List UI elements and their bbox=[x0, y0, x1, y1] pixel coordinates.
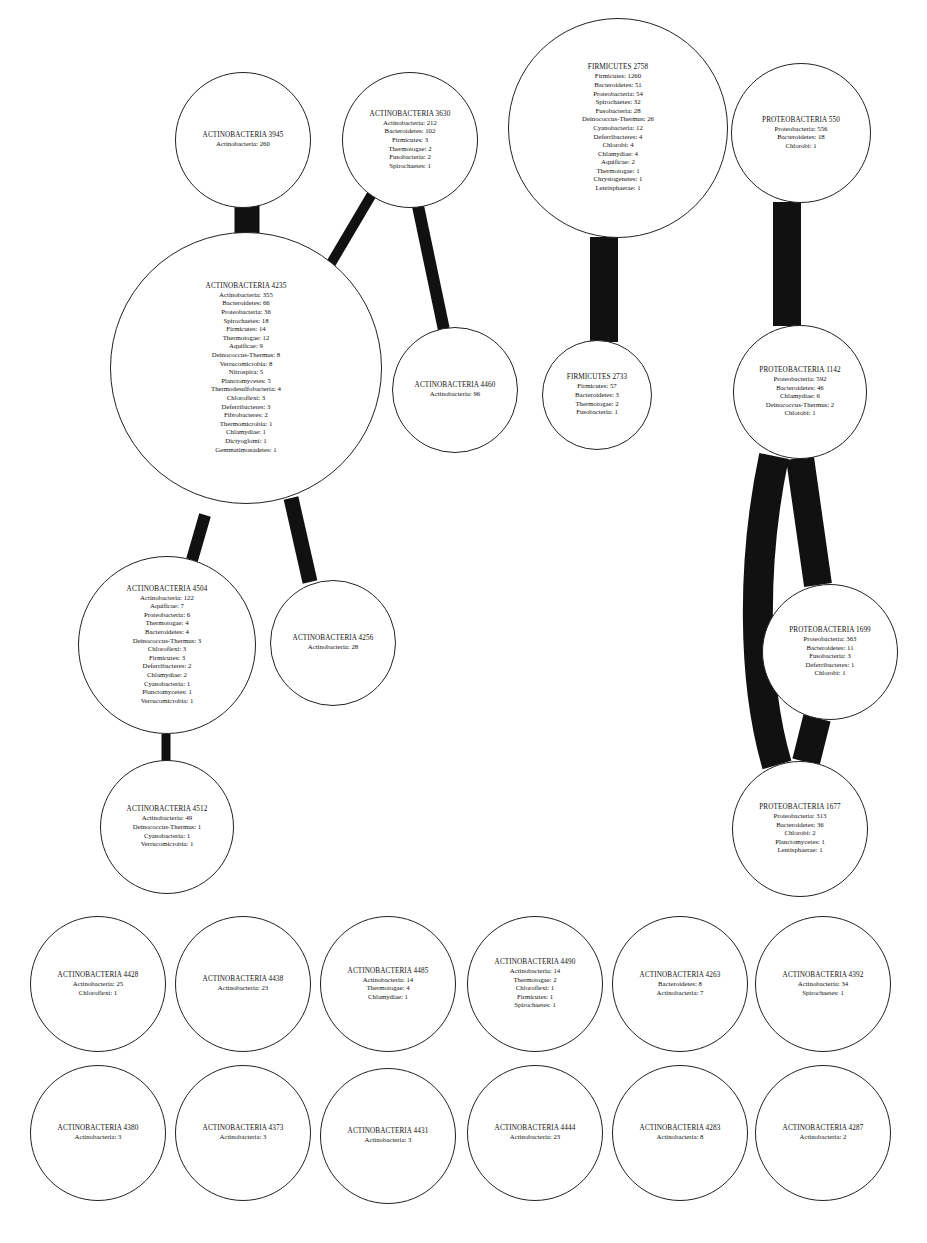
node-phylum-count: Deferribacteres: 2 bbox=[143, 662, 192, 671]
node-a4460: ACTINOBACTERIA 4460Actinobacteria: 96 bbox=[392, 327, 518, 453]
node-a4490: ACTINOBACTERIA 4490Actinobacteria: 14The… bbox=[467, 916, 603, 1052]
node-phylum-count: Thermotogae: 4 bbox=[145, 619, 188, 628]
node-phylum-count: Deinococcus-Thermus: 3 bbox=[133, 637, 202, 646]
node-a4235: ACTINOBACTERIA 4235Actinobacteria: 355Ba… bbox=[110, 232, 382, 504]
node-phylum-count: Actinobacteria: 28 bbox=[308, 643, 358, 652]
node-phylum-count: Chloroflexi: 1 bbox=[516, 984, 554, 993]
node-phylum-count: Proteobacteria: 556 bbox=[774, 125, 827, 134]
node-phylum-count: Aquificae: 9 bbox=[229, 342, 263, 351]
node-phylum-count: Bacteroidetes: 36 bbox=[776, 821, 823, 830]
node-phylum-count: Chlamydiae: 1 bbox=[226, 428, 266, 437]
node-phylum-count: Chlamydiae: 6 bbox=[780, 392, 820, 401]
node-phylum-count: Actinobacteria: 23 bbox=[218, 984, 268, 993]
node-phylum-count: Bacteroidetes: 11 bbox=[806, 644, 853, 653]
node-a4287: ACTINOBACTERIA 4287Actinobacteria: 2 bbox=[755, 1065, 891, 1201]
node-title: ACTINOBACTERIA 4263 bbox=[640, 971, 721, 980]
node-phylum-count: Firmicutes: 1 bbox=[517, 993, 553, 1002]
node-phylum-count: Firmicutes: 1260 bbox=[595, 72, 641, 81]
node-phylum-count: Bacteroidetes: 8 bbox=[658, 980, 702, 989]
node-phylum-count: Thermotogae: 1 bbox=[596, 167, 639, 176]
node-p550: PROTEOBACTERIA 550Proteobacteria: 556Bac… bbox=[731, 63, 871, 203]
node-phylum-count: Chloroflexi: 3 bbox=[227, 394, 265, 403]
node-a4392: ACTINOBACTERIA 4392Actinobacteria: 34Spi… bbox=[755, 916, 891, 1052]
node-p1142: PROTEOBACTERIA 1142Proteobacteria: 592Ba… bbox=[733, 325, 867, 459]
node-title: ACTINOBACTERIA 4444 bbox=[495, 1124, 576, 1133]
node-a4283: ACTINOBACTERIA 4283Actinobacteria: 8 bbox=[612, 1065, 748, 1201]
node-phylum-count: Spirochaetes: 1 bbox=[802, 989, 844, 998]
node-title: ACTINOBACTERIA 4485 bbox=[348, 967, 429, 976]
node-phylum-count: Chlamydiae: 1 bbox=[368, 993, 408, 1002]
node-phylum-count: Fusobacteria: 3 bbox=[809, 652, 851, 661]
node-title: ACTINOBACTERIA 4256 bbox=[293, 634, 374, 643]
node-phylum-count: Deinococcus-Thermus: 26 bbox=[582, 115, 654, 124]
node-phylum-count: Proteobacteria: 592 bbox=[773, 375, 826, 384]
node-phylum-count: Dictyoglomi: 1 bbox=[225, 437, 266, 446]
edge-p1699-p1677 bbox=[806, 718, 817, 762]
node-phylum-count: Planctomycetes: 1 bbox=[775, 838, 825, 847]
cluster-network-diagram: ACTINOBACTERIA 3945Actinobacteria: 260AC… bbox=[0, 0, 927, 1243]
node-a4428: ACTINOBACTERIA 4428Actinobacteria: 25Chl… bbox=[30, 916, 166, 1052]
node-title: ACTINOBACTERIA 4512 bbox=[127, 805, 208, 814]
node-title: ACTINOBACTERIA 4373 bbox=[203, 1124, 284, 1133]
node-phylum-count: Gemmatimonadetes: 1 bbox=[215, 446, 276, 455]
node-title: PROTEOBACTERIA 550 bbox=[762, 116, 840, 125]
node-phylum-count: Spirochaetes: 1 bbox=[389, 162, 431, 171]
node-phylum-count: Lentisphaerae: 1 bbox=[595, 184, 640, 193]
node-phylum-count: Proteobacteria: 36 bbox=[221, 308, 271, 317]
node-title: ACTINOBACTERIA 4460 bbox=[415, 381, 496, 390]
node-phylum-count: Chlorobi: 4 bbox=[602, 141, 633, 150]
node-a4431: ACTINOBACTERIA 4431Actinobacteria: 3 bbox=[320, 1068, 456, 1204]
node-phylum-count: Deinococcus-Thermus: 8 bbox=[212, 351, 281, 360]
edge-p1142-p1677 bbox=[758, 456, 777, 765]
node-phylum-count: Chlorobi: 1 bbox=[785, 142, 816, 151]
node-phylum-count: Bacteroidetes: 66 bbox=[222, 299, 269, 308]
node-phylum-count: Bacteroidetes: 3 bbox=[575, 391, 619, 400]
node-title: ACTINOBACTERIA 4235 bbox=[206, 282, 287, 291]
node-phylum-count: Chlorobi: 2 bbox=[784, 829, 815, 838]
node-phylum-count: Thermomicrobia: 1 bbox=[220, 420, 273, 429]
node-f2758: FIRMICUTES 2758Firmicutes: 1260Bacteroid… bbox=[508, 18, 728, 238]
node-title: FIRMICUTES 2758 bbox=[588, 63, 648, 72]
node-a4373: ACTINOBACTERIA 4373Actinobacteria: 3 bbox=[175, 1065, 311, 1201]
node-phylum-count: Actinobacteria: 355 bbox=[219, 291, 273, 300]
edge-a4235-a4256 bbox=[291, 498, 310, 582]
node-phylum-count: Actinobacteria: 7 bbox=[657, 989, 704, 998]
node-title: ACTINOBACTERIA 4504 bbox=[127, 585, 208, 594]
node-phylum-count: Actinobacteria: 14 bbox=[510, 967, 560, 976]
node-phylum-count: Bacteroidetes: 51 bbox=[594, 81, 641, 90]
node-phylum-count: Chlorobi: 1 bbox=[814, 669, 845, 678]
node-phylum-count: Actinobacteria: 34 bbox=[798, 980, 848, 989]
node-phylum-count: Firmicutes: 14 bbox=[226, 325, 265, 334]
node-phylum-count: Cyanobacteria: 12 bbox=[593, 124, 643, 133]
node-title: ACTINOBACTERIA 4283 bbox=[640, 1124, 721, 1133]
node-phylum-count: Deinococcus-Thermus: 1 bbox=[133, 823, 202, 832]
node-phylum-count: Thermotogae: 12 bbox=[223, 334, 270, 343]
node-phylum-count: Planctomycetes: 5 bbox=[221, 377, 271, 386]
node-phylum-count: Actinobacteria: 3 bbox=[365, 1136, 412, 1145]
node-phylum-count: Firmicutes: 3 bbox=[392, 136, 428, 145]
node-phylum-count: Verrucomicrobia: 1 bbox=[141, 697, 194, 706]
node-phylum-count: Bacteroidetes: 46 bbox=[776, 384, 823, 393]
node-title: ACTINOBACTERIA 4438 bbox=[203, 975, 284, 984]
node-phylum-count: Firmicutes: 3 bbox=[149, 654, 185, 663]
node-phylum-count: Proteobacteria: 363 bbox=[803, 635, 856, 644]
node-phylum-count: Proteobacteria: 54 bbox=[593, 90, 643, 99]
node-title: ACTINOBACTERIA 4392 bbox=[783, 971, 864, 980]
node-phylum-count: Actinobacteria: 96 bbox=[430, 390, 480, 399]
node-phylum-count: Actinobacteria: 2 bbox=[800, 1133, 847, 1142]
node-phylum-count: Fusobacteria: 2 bbox=[389, 153, 431, 162]
node-f2733: FIRMICUTES 2733Firmicutes: 57Bacteroidet… bbox=[542, 340, 652, 450]
node-p1699: PROTEOBACTERIA 1699Proteobacteria: 363Ba… bbox=[762, 584, 898, 720]
node-phylum-count: Chlamydiae: 4 bbox=[598, 150, 638, 159]
node-title: ACTINOBACTERIA 3630 bbox=[370, 110, 451, 119]
node-phylum-count: Thermotogae: 2 bbox=[513, 976, 556, 985]
node-phylum-count: Proteobacteria: 6 bbox=[144, 611, 190, 620]
node-phylum-count: Thermodesulfobacteria: 4 bbox=[211, 385, 281, 394]
node-phylum-count: Spirochaetes: 1 bbox=[514, 1001, 556, 1010]
node-title: ACTINOBACTERIA 4490 bbox=[495, 958, 576, 967]
edge-a4235-a4504 bbox=[192, 515, 205, 560]
node-a4485: ACTINOBACTERIA 4485Actinobacteria: 14The… bbox=[320, 916, 456, 1052]
node-phylum-count: Lentisphaerae: 1 bbox=[777, 846, 822, 855]
node-phylum-count: Spirochaetes: 32 bbox=[595, 98, 640, 107]
node-phylum-count: Fusobacteria: 28 bbox=[595, 107, 640, 116]
